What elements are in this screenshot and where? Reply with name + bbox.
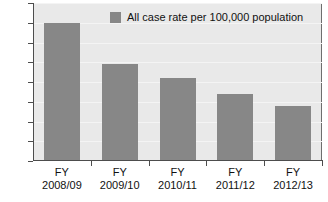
y-tick-mark: [28, 23, 33, 24]
x-tick-label: FY2009/10: [91, 166, 149, 192]
legend: All case rate per 100,000 population: [110, 11, 303, 23]
gridline: [33, 3, 322, 4]
y-tick-mark: [28, 161, 33, 162]
bar: [102, 64, 138, 161]
bar: [217, 94, 253, 161]
x-tick-label: FY2012/13: [264, 166, 322, 192]
y-axis-line: [33, 3, 34, 161]
x-tick-label-line2: 2010/11: [149, 179, 207, 192]
y-tick-mark: [28, 43, 33, 44]
y-tick-mark: [28, 3, 33, 4]
x-tick-label-line2: 2012/13: [264, 179, 322, 192]
y-tick-mark: [28, 62, 33, 63]
x-tick-label-line2: 2008/09: [33, 179, 91, 192]
x-tick-label-line1: FY: [206, 166, 264, 179]
x-tick-label-line1: FY: [264, 166, 322, 179]
legend-swatch-all-case-rate: [110, 12, 121, 23]
x-tick-label: FY2010/11: [149, 166, 207, 192]
x-tick-label-line1: FY: [33, 166, 91, 179]
y-tick-mark: [28, 102, 33, 103]
x-tick-label-line2: 2009/10: [91, 179, 149, 192]
bar-chart: 80706050403020100 FY2008/09FY2009/10FY20…: [0, 0, 328, 202]
x-tick-label-line1: FY: [149, 166, 207, 179]
x-tick-label-line1: FY: [91, 166, 149, 179]
y-tick-mark: [28, 122, 33, 123]
bar: [160, 78, 196, 161]
x-tick-mark: [322, 161, 323, 166]
x-tick-label: FY2008/09: [33, 166, 91, 192]
x-tick-label-line2: 2011/12: [206, 179, 264, 192]
x-tick-label: FY2011/12: [206, 166, 264, 192]
x-axis-line: [33, 160, 323, 161]
y-tick-mark: [28, 82, 33, 83]
bar: [44, 23, 80, 161]
legend-label-all-case-rate: All case rate per 100,000 population: [127, 11, 303, 23]
y-tick-mark: [28, 141, 33, 142]
bar: [275, 106, 311, 161]
